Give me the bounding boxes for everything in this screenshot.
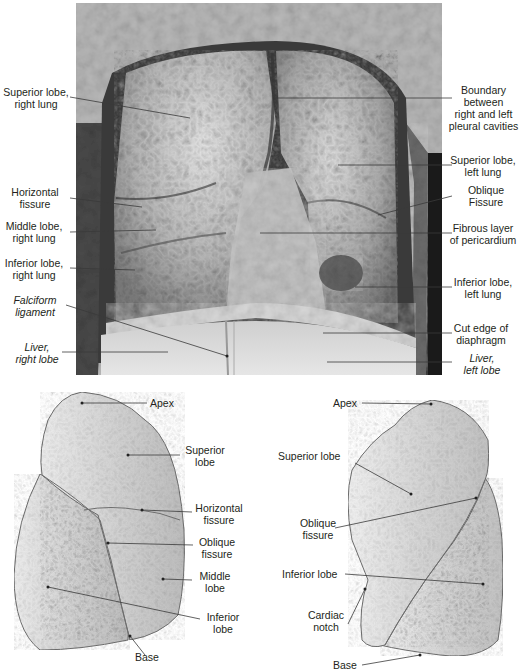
label-line: Falciform bbox=[6, 294, 64, 306]
label-line: right lobe bbox=[10, 353, 64, 365]
label-oblique-fissure-photo: Oblique Fissure bbox=[456, 184, 516, 208]
label-line: lobe bbox=[180, 456, 230, 468]
label-line: lobe bbox=[192, 582, 238, 594]
label-superior-lobe-left: Superior lobe bbox=[278, 450, 340, 462]
label-base-left: Base bbox=[333, 659, 357, 670]
label-oblique-fissure-right: Oblique fissure bbox=[192, 536, 242, 560]
label-line: fissure bbox=[4, 198, 66, 210]
label-line: Superior lobe bbox=[278, 450, 340, 462]
label-line: lobe bbox=[200, 623, 246, 635]
label-apex-left: Apex bbox=[333, 397, 357, 409]
label-line: pleural cavities bbox=[448, 120, 519, 132]
label-line: Base bbox=[135, 651, 159, 663]
thoracic-cavity-photo bbox=[76, 3, 442, 375]
label-line: Liver, bbox=[10, 341, 64, 353]
label-line: Fissure bbox=[456, 196, 516, 208]
label-line: Superior lobe, bbox=[0, 86, 72, 98]
label-line: Oblique bbox=[192, 536, 242, 548]
label-fibrous-pericardium: Fibrous layer of pericardium bbox=[448, 222, 518, 246]
label-line: right and left bbox=[448, 108, 519, 120]
label-line: notch bbox=[306, 621, 346, 633]
label-cardiac-notch: Cardiac notch bbox=[306, 609, 346, 633]
label-line: Horizontal bbox=[190, 502, 248, 514]
photo-illustration bbox=[76, 3, 442, 375]
label-line: fissure bbox=[296, 529, 340, 541]
label-inferior-lobe-right: Inferior lobe bbox=[200, 611, 246, 635]
label-line: Apex bbox=[333, 397, 357, 409]
label-line: Inferior lobe, bbox=[448, 276, 518, 288]
label-line: fissure bbox=[190, 514, 248, 526]
label-line: Apex bbox=[150, 397, 174, 409]
label-inferior-lobe-left-lung: Inferior lobe, left lung bbox=[448, 276, 518, 300]
label-line: left lung bbox=[448, 166, 518, 178]
label-inferior-lobe-left: Inferior lobe bbox=[282, 568, 337, 580]
label-line: between bbox=[448, 96, 519, 108]
label-apex-right: Apex bbox=[150, 397, 174, 409]
label-liver-left-lobe: Liver, left lobe bbox=[452, 352, 512, 376]
label-line: Fibrous layer bbox=[448, 222, 518, 234]
label-line: left lobe bbox=[452, 364, 512, 376]
label-superior-lobe-left-lung: Superior lobe, left lung bbox=[448, 154, 518, 178]
label-horizontal-fissure-photo: Horizontal fissure bbox=[4, 186, 66, 210]
label-line: Superior lobe, bbox=[448, 154, 518, 166]
label-inferior-lobe-right-lung: Inferior lobe, right lung bbox=[0, 257, 68, 281]
right-lung-drawing bbox=[0, 380, 200, 670]
label-line: Superior bbox=[180, 444, 230, 456]
label-line: Cardiac bbox=[306, 609, 346, 621]
label-line: Inferior lobe, bbox=[0, 257, 68, 269]
label-line: Middle bbox=[192, 570, 238, 582]
label-line: Oblique bbox=[456, 184, 516, 196]
label-line: Middle lobe, bbox=[0, 220, 68, 232]
label-line: ligament bbox=[6, 306, 64, 318]
label-middle-lobe-right-lung: Middle lobe, right lung bbox=[0, 220, 68, 244]
label-line: fissure bbox=[192, 548, 242, 560]
label-horizontal-fissure-right: Horizontal fissure bbox=[190, 502, 248, 526]
label-line: Boundary bbox=[448, 84, 519, 96]
label-line: Horizontal bbox=[4, 186, 66, 198]
label-boundary-pleural-cavities: Boundary between right and left pleural … bbox=[448, 84, 519, 132]
label-line: Inferior bbox=[200, 611, 246, 623]
label-line: Liver, bbox=[452, 352, 512, 364]
label-line: left lung bbox=[448, 288, 518, 300]
label-line: Cut edge of bbox=[448, 322, 514, 334]
label-line: diaphragm bbox=[448, 334, 514, 346]
label-liver-right-lobe: Liver, right lobe bbox=[10, 341, 64, 365]
label-oblique-fissure-left: Oblique fissure bbox=[296, 517, 340, 541]
label-line: Oblique bbox=[296, 517, 340, 529]
label-superior-lobe-right-lung: Superior lobe, right lung bbox=[0, 86, 72, 110]
label-line: Inferior lobe bbox=[282, 568, 337, 580]
label-line: Base bbox=[333, 659, 357, 670]
label-middle-lobe-right: Middle lobe bbox=[192, 570, 238, 594]
label-line: right lung bbox=[0, 232, 68, 244]
label-line: right lung bbox=[0, 98, 72, 110]
label-superior-lobe-right: Superior lobe bbox=[180, 444, 230, 468]
label-line: of pericardium bbox=[448, 234, 518, 246]
label-base-right: Base bbox=[135, 651, 159, 663]
label-line: right lung bbox=[0, 269, 68, 281]
label-cut-edge-diaphragm: Cut edge of diaphragm bbox=[448, 322, 514, 346]
anatomy-figure: Superior lobe, right lung Horizontal fis… bbox=[0, 0, 519, 670]
label-falciform-ligament: Falciform ligament bbox=[6, 294, 64, 318]
